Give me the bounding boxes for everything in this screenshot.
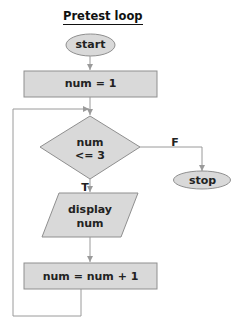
init-label: num = 1 — [24, 77, 157, 90]
condition-label-line2: <= 3 — [60, 149, 120, 162]
output-label-line2: num — [50, 217, 130, 230]
true-branch-label: T — [79, 181, 91, 194]
condition-label-line1: num — [60, 136, 120, 149]
increment-label: num = num + 1 — [24, 270, 157, 283]
false-branch-label: F — [169, 136, 181, 149]
start-label: start — [66, 38, 115, 51]
stop-label: stop — [174, 174, 231, 187]
arrow-false-to-stop — [140, 147, 202, 171]
diagram-title: Pretest loop — [63, 9, 143, 25]
output-label-line1: display — [50, 203, 130, 216]
